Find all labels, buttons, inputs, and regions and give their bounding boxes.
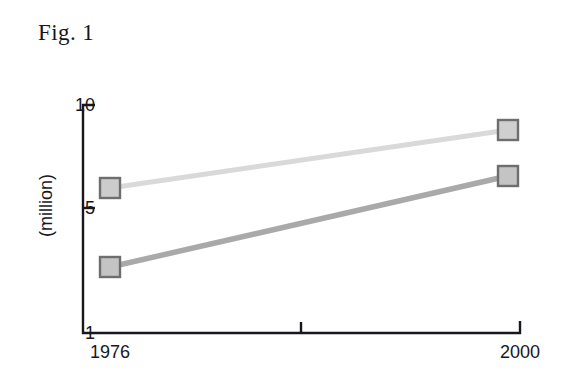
plot-area bbox=[0, 0, 564, 382]
series-lower-line bbox=[110, 176, 508, 267]
series-upper-line bbox=[110, 130, 508, 188]
data-point-upper-2000 bbox=[498, 120, 518, 140]
data-point-lower-1976 bbox=[100, 257, 120, 277]
data-point-lower-2000 bbox=[498, 166, 518, 186]
data-point-upper-1976 bbox=[100, 178, 120, 198]
figure-container: Fig. 1 (million) 10 5 1 1976 2000 bbox=[0, 0, 564, 382]
